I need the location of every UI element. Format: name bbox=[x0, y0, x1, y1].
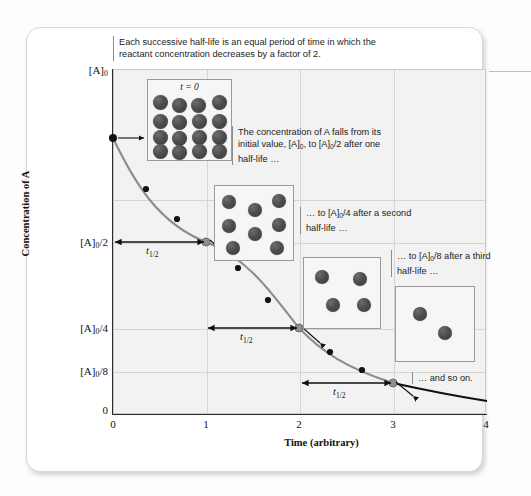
molecule-sphere bbox=[192, 144, 207, 159]
molecule-box-two-half-lives bbox=[303, 257, 381, 329]
molecule-sphere bbox=[212, 144, 227, 159]
callout-two-half-lives: … to [A]0/4 after a second half-life … bbox=[300, 207, 414, 234]
molecule-sphere bbox=[192, 130, 207, 145]
y-axis-title: Concentration of A bbox=[20, 114, 31, 314]
top-caption: Each successive half-life is an equal pe… bbox=[113, 36, 387, 61]
molecule-sphere bbox=[226, 241, 240, 255]
molecule-sphere bbox=[413, 307, 427, 321]
callout-and-so-on: … and so on. bbox=[412, 372, 502, 384]
molecule-sphere bbox=[222, 219, 236, 233]
molecule-sphere bbox=[153, 114, 168, 129]
y-axis bbox=[112, 69, 113, 415]
x-tick-3: 3 bbox=[390, 418, 396, 430]
x-tick-4: 4 bbox=[483, 418, 489, 430]
y-tick-label-a0-2: [A]0/2 bbox=[80, 236, 108, 250]
page-rule bbox=[489, 71, 531, 72]
y-tick-label-a0-8: [A]0/8 bbox=[80, 365, 108, 379]
gridline-y-half bbox=[114, 243, 485, 244]
molecule-box-t0: t = 0 bbox=[147, 79, 232, 161]
molecule-sphere bbox=[315, 270, 329, 284]
molecule-sphere bbox=[222, 195, 236, 209]
molecule-sphere bbox=[438, 326, 452, 340]
molecule-sphere bbox=[248, 203, 262, 217]
half-life-label-2: t1/2 bbox=[240, 331, 253, 345]
molecule-sphere bbox=[153, 95, 168, 110]
molecule-box-three-half-lives bbox=[395, 286, 475, 362]
molecule-sphere bbox=[153, 130, 168, 145]
molecule-sphere bbox=[172, 98, 187, 113]
x-tick-2: 2 bbox=[296, 418, 302, 430]
x-tick-1: 1 bbox=[203, 418, 209, 430]
molecule-box-one-half-life bbox=[214, 185, 294, 261]
y-tick-label-a0: [A]0 bbox=[89, 64, 108, 78]
molecule-sphere bbox=[153, 144, 168, 159]
molecule-sphere bbox=[248, 227, 262, 241]
molecule-sphere bbox=[326, 298, 340, 312]
molecule-sphere bbox=[272, 218, 286, 232]
molecule-sphere bbox=[172, 131, 187, 146]
y-tick-label-a0-4: [A]0/4 bbox=[80, 322, 108, 336]
gridline-x-2 bbox=[300, 70, 301, 413]
callout-one-half-life: The concentration of A falls from its in… bbox=[232, 126, 384, 165]
molecule-sphere bbox=[270, 241, 284, 255]
x-axis-title: Time (arbitrary) bbox=[0, 437, 531, 448]
t-zero-label: t = 0 bbox=[148, 82, 231, 92]
callout-three-half-lives: … to [A]0/8 after a third half-life … bbox=[391, 250, 497, 277]
molecule-sphere bbox=[212, 114, 227, 129]
molecule-sphere bbox=[357, 298, 371, 312]
x-axis bbox=[112, 414, 487, 415]
molecule-sphere bbox=[353, 272, 367, 286]
molecule-sphere bbox=[192, 114, 207, 129]
molecule-sphere bbox=[212, 95, 227, 110]
figure-root: Each successive half-life is an equal pe… bbox=[0, 0, 531, 496]
molecule-sphere bbox=[172, 145, 187, 160]
molecule-sphere bbox=[172, 115, 187, 130]
x-tick-0: 0 bbox=[110, 418, 116, 430]
gridline-y-upper bbox=[114, 200, 485, 201]
molecule-sphere bbox=[191, 98, 206, 113]
half-life-label-1: t1/2 bbox=[146, 245, 159, 259]
y-tick-label-zero: 0 bbox=[103, 404, 109, 416]
molecule-sphere bbox=[212, 130, 227, 145]
molecule-sphere bbox=[272, 194, 286, 208]
half-life-label-3: t1/2 bbox=[333, 386, 346, 400]
